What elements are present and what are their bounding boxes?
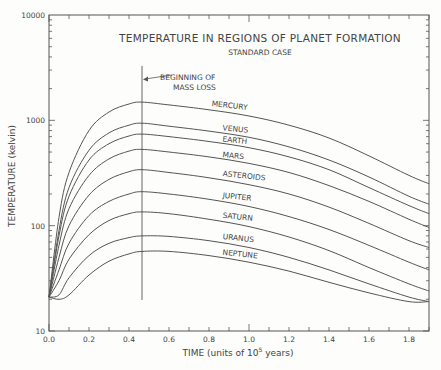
chart-svg: 0.00.20.40.60.81.01.21.41.61.81010010001… — [0, 0, 441, 370]
series-label-mercury: MERCURY — [211, 99, 248, 112]
curve-neptune — [49, 251, 429, 302]
y-tick-label: 100 — [31, 222, 46, 231]
series-label-jupiter: JUPITER — [221, 191, 252, 203]
y-tick-label: 10000 — [21, 11, 45, 20]
y-tick-label: 1000 — [26, 116, 45, 125]
x-tick-label: 1.2 — [283, 335, 295, 344]
x-tick-label: 0.6 — [163, 335, 175, 344]
series-label-uranus: URANUS — [222, 232, 254, 244]
annotation-line1: BEGINNING OF — [160, 73, 215, 82]
x-axis-label: TIME (units of 105 years) — [182, 346, 294, 358]
x-tick-label: 0.8 — [203, 335, 215, 344]
chart-subtitle: STANDARD CASE — [228, 48, 292, 57]
x-tick-label: 0.4 — [123, 335, 135, 344]
y-axis-label: TEMPERATURE (kelvin) — [7, 125, 17, 228]
x-tick-label: 1.6 — [363, 335, 375, 344]
chart-title: TEMPERATURE IN REGIONS OF PLANET FORMATI… — [118, 32, 401, 44]
series-label-saturn: SATURN — [222, 211, 253, 223]
chart: 0.00.20.40.60.81.01.21.41.61.81010010001… — [0, 0, 441, 370]
x-tick-label: 0.0 — [43, 335, 55, 344]
x-tick-label: 1.0 — [243, 335, 255, 344]
x-tick-label: 1.4 — [323, 335, 335, 344]
curve-venus — [49, 123, 429, 297]
x-tick-label: 0.2 — [83, 335, 95, 344]
annotation-line2: MASS LOSS — [173, 83, 216, 92]
x-tick-label: 1.8 — [403, 335, 415, 344]
y-tick-label: 10 — [35, 327, 45, 336]
arrow-icon — [143, 77, 148, 82]
